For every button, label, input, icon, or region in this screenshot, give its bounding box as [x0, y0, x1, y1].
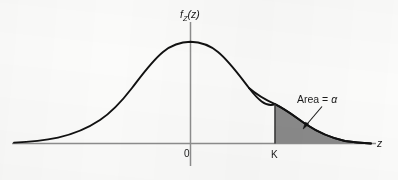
x-axis-label: z [376, 137, 383, 149]
shaded-tail-area [275, 104, 371, 143]
normal-curve-figure: fZ(z) z 0 K Area =α [0, 0, 398, 180]
area-annotation-symbol: α [331, 93, 338, 105]
figure-canvas: fZ(z) z 0 K Area =α [0, 0, 398, 180]
y-axis-label: fZ(z) [180, 8, 200, 23]
area-annotation-prefix: Area = [297, 93, 328, 105]
y-axis-label-tail: (z) [188, 8, 200, 20]
origin-tick-label: 0 [184, 148, 190, 159]
area-annotation-label: Area =α [297, 93, 338, 105]
critical-value-tick-label: K [271, 149, 278, 160]
